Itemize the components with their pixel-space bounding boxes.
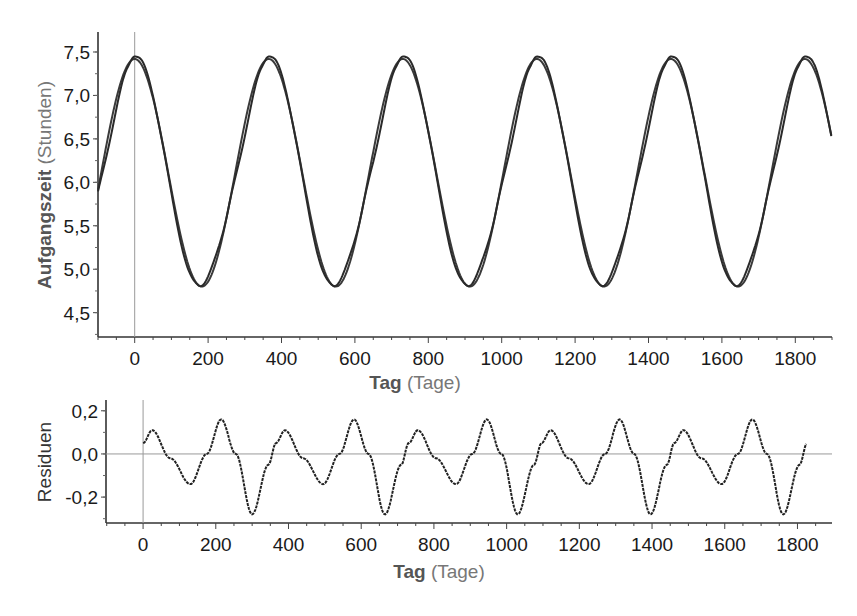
y-tick-label: 5,5 — [64, 216, 90, 237]
x-tick-label: 600 — [345, 534, 377, 555]
x-tick-label: 1200 — [554, 348, 596, 369]
y-tick-label: 0,2 — [72, 401, 98, 422]
x-tick-label: 1200 — [558, 534, 600, 555]
x-tick-label: 400 — [273, 534, 305, 555]
y-axis-label: Residuen — [34, 422, 55, 502]
bottom-chart: 020040060080010001200140016001800-0,20,0… — [34, 400, 832, 582]
x-tick-label: 1600 — [704, 534, 746, 555]
y-tick-label: 5,0 — [64, 259, 90, 280]
y-tick-label: 7,5 — [64, 42, 90, 63]
y-tick-label: 0,0 — [72, 444, 98, 465]
x-tick-label: 400 — [266, 348, 298, 369]
x-tick-label: 600 — [339, 348, 371, 369]
x-tick-label: 200 — [192, 348, 224, 369]
x-tick-label: 1400 — [627, 348, 669, 369]
x-tick-label: 1000 — [485, 534, 527, 555]
top-chart: 0200400600800100012001400160018004,55,05… — [34, 32, 832, 393]
x-tick-label: 800 — [418, 534, 450, 555]
x-tick-label: 1400 — [631, 534, 673, 555]
chart-canvas: 0200400600800100012001400160018004,55,05… — [0, 0, 857, 616]
fit-curve — [98, 59, 831, 287]
x-tick-label: 1800 — [776, 534, 818, 555]
x-tick-label: 1600 — [701, 348, 743, 369]
x-tick-label: 0 — [138, 534, 149, 555]
x-axis-label: Tag (Tage) — [369, 372, 461, 393]
y-tick-label: 4,5 — [64, 303, 90, 324]
residual-curve — [143, 419, 806, 514]
x-tick-label: 0 — [129, 348, 140, 369]
x-axis-label: Tag (Tage) — [393, 561, 485, 582]
x-tick-label: 200 — [200, 534, 232, 555]
y-tick-label: 6,0 — [64, 172, 90, 193]
x-tick-label: 800 — [412, 348, 444, 369]
y-tick-label: 6,5 — [64, 129, 90, 150]
y-tick-label: -0,2 — [65, 487, 98, 508]
x-tick-label: 1800 — [774, 348, 816, 369]
y-tick-label: 7,0 — [64, 85, 90, 106]
y-axis-label: Aufgangszeit (Stunden) — [34, 81, 55, 289]
x-tick-label: 1000 — [481, 348, 523, 369]
